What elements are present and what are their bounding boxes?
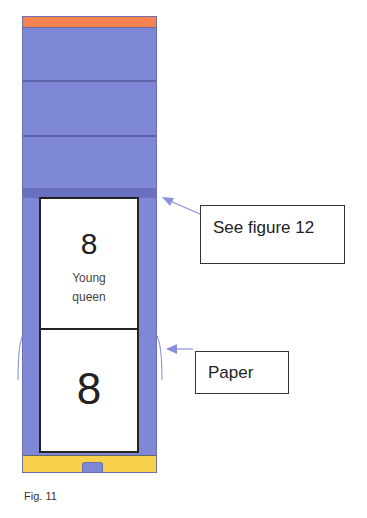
callout-text: Paper (208, 363, 253, 382)
callout-paper: Paper (195, 351, 289, 394)
figure-caption: Fig. 11 (24, 490, 57, 502)
callout-see-figure-12: See figure 12 (200, 205, 345, 264)
callout-text: See figure 12 (213, 218, 314, 237)
